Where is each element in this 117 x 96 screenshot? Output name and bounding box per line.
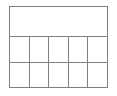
table-cell-text [88,63,107,65]
table-cell-text [69,63,88,65]
table-body [10,37,107,87]
table-cell[interactable] [87,37,107,62]
table-cell-text [49,37,68,39]
table-cell[interactable] [10,63,29,88]
table-cell-text [10,63,29,65]
table-grid [9,6,108,88]
table-cell[interactable] [68,37,88,62]
table-cell[interactable] [48,37,68,62]
table-header-cell-text [10,7,107,9]
table-header-row [10,7,107,37]
page-root [0,0,117,96]
table-header-cell[interactable] [10,7,107,36]
table-cell-text [10,37,29,39]
table-cell[interactable] [29,37,49,62]
table-cell-text [69,37,88,39]
table-cell-text [30,63,49,65]
table-cell[interactable] [10,37,29,62]
table-cell[interactable] [29,63,49,88]
table-row [10,62,107,88]
table-cell-text [49,63,68,65]
table-cell-text [88,37,107,39]
table-cell[interactable] [68,63,88,88]
table-cell[interactable] [87,63,107,88]
table-cell[interactable] [48,63,68,88]
table-row [10,37,107,62]
table-cell-text [30,37,49,39]
